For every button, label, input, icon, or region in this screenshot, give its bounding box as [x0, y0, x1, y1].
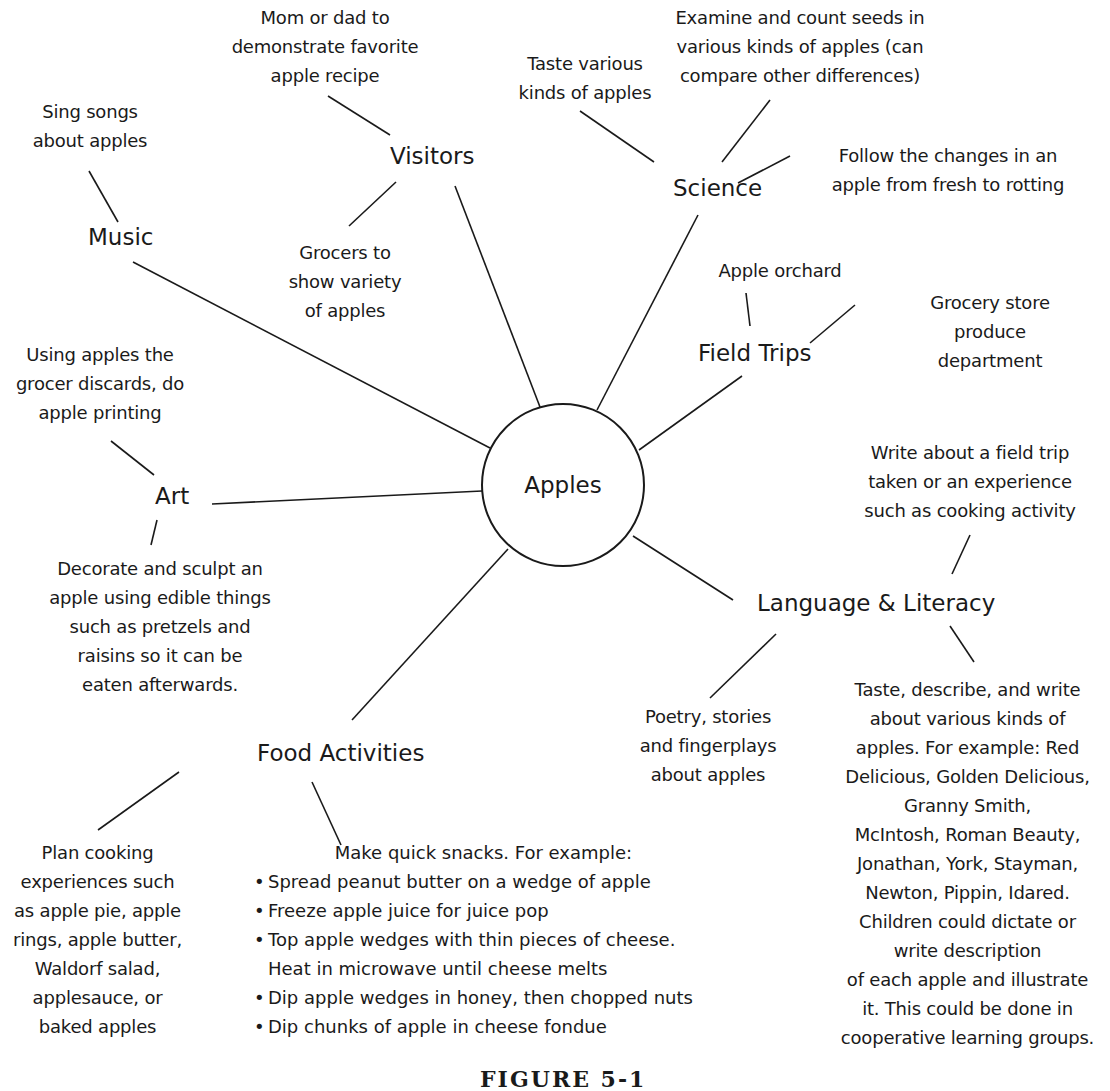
idea-field-trips-grocery: Grocery store produce department: [900, 288, 1080, 375]
idea-art-printing: Using apples the grocer discards, do app…: [0, 340, 200, 427]
central-topic-apples: Apples: [481, 403, 645, 567]
topic-music: Music: [88, 224, 153, 250]
topic-field-trips: Field Trips: [698, 340, 812, 366]
snack-item: Dip apple wedges in honey, then chopped …: [254, 983, 693, 1012]
snack-item: Dip chunks of apple in cheese fondue: [254, 1012, 693, 1041]
topic-language-literacy: Language & Literacy: [757, 590, 995, 616]
idea-language-poetry: Poetry, stories and fingerplays about ap…: [628, 702, 788, 789]
idea-science-seeds: Examine and count seeds in various kinds…: [660, 3, 940, 90]
snacks-heading: Make quick snacks. For example:: [254, 838, 693, 867]
topic-science: Science: [673, 175, 762, 201]
topic-art: Art: [155, 483, 189, 509]
idea-language-taste-describe: Taste, describe, and write about various…: [825, 675, 1110, 1052]
figure-caption: FIGURE 5-1: [480, 1066, 646, 1091]
idea-visitors-parent-recipe: Mom or dad to demonstrate favorite apple…: [210, 3, 440, 90]
idea-science-taste: Taste various kinds of apples: [505, 49, 665, 107]
snack-item: Spread peanut butter on a wedge of apple: [254, 867, 693, 896]
snacks-list: Spread peanut butter on a wedge of apple…: [254, 867, 693, 1041]
idea-art-sculpt: Decorate and sculpt an apple using edibl…: [30, 554, 290, 699]
idea-visitors-grocers: Grocers to show variety of apples: [270, 238, 420, 325]
idea-food-cooking: Plan cooking experiences such as apple p…: [10, 838, 185, 1041]
topic-visitors: Visitors: [390, 143, 475, 169]
snack-item: Freeze apple juice for juice pop: [254, 896, 693, 925]
idea-food-quick-snacks: Make quick snacks. For example: Spread p…: [254, 838, 693, 1041]
idea-science-rotting: Follow the changes in an apple from fres…: [788, 141, 1108, 199]
central-topic-label: Apples: [524, 472, 601, 498]
idea-field-trips-orchard: Apple orchard: [715, 256, 845, 285]
snack-item: Top apple wedges with thin pieces of che…: [254, 925, 693, 983]
idea-language-write-field-trip: Write about a field trip taken or an exp…: [840, 438, 1100, 525]
idea-music-sing-songs: Sing songs about apples: [20, 97, 160, 155]
topic-food-activities: Food Activities: [257, 740, 424, 766]
